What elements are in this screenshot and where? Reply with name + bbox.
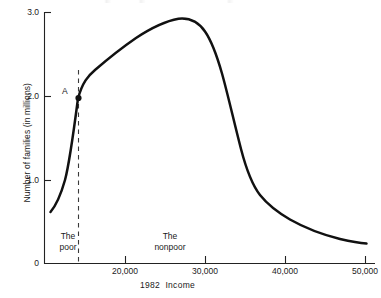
- region-label-poor-line2: poor: [44, 243, 92, 252]
- x-tick-label-30000: 30,000: [183, 267, 227, 276]
- y-tick-label-0: 0: [17, 259, 39, 268]
- x-tick-label-20000: 20,000: [103, 267, 147, 276]
- region-label-nonpoor-line2: nonpoor: [146, 243, 194, 252]
- y-tick-label-3: 3.0: [17, 8, 39, 17]
- x-tick-label-40000: 40,000: [263, 267, 307, 276]
- plot-canvas: [0, 0, 381, 298]
- point-a-label: A: [62, 87, 68, 96]
- income-distribution-chart: 3.0 2.0 1.0 0 20,000 30,000 40,000 50,00…: [0, 0, 381, 298]
- x-tick-marks: [126, 256, 366, 264]
- region-label-nonpoor-line1: The: [146, 232, 194, 241]
- x-axis-title: 1982 Income: [140, 281, 195, 290]
- distribution-curve: [51, 19, 367, 244]
- y-axis-title: Number of families (in millions): [23, 63, 32, 223]
- x-tick-label-50000: 50,000: [343, 267, 381, 276]
- region-label-poor-line1: The: [44, 232, 92, 241]
- y-tick-marks: [45, 13, 52, 181]
- point-a-marker[interactable]: [75, 95, 81, 101]
